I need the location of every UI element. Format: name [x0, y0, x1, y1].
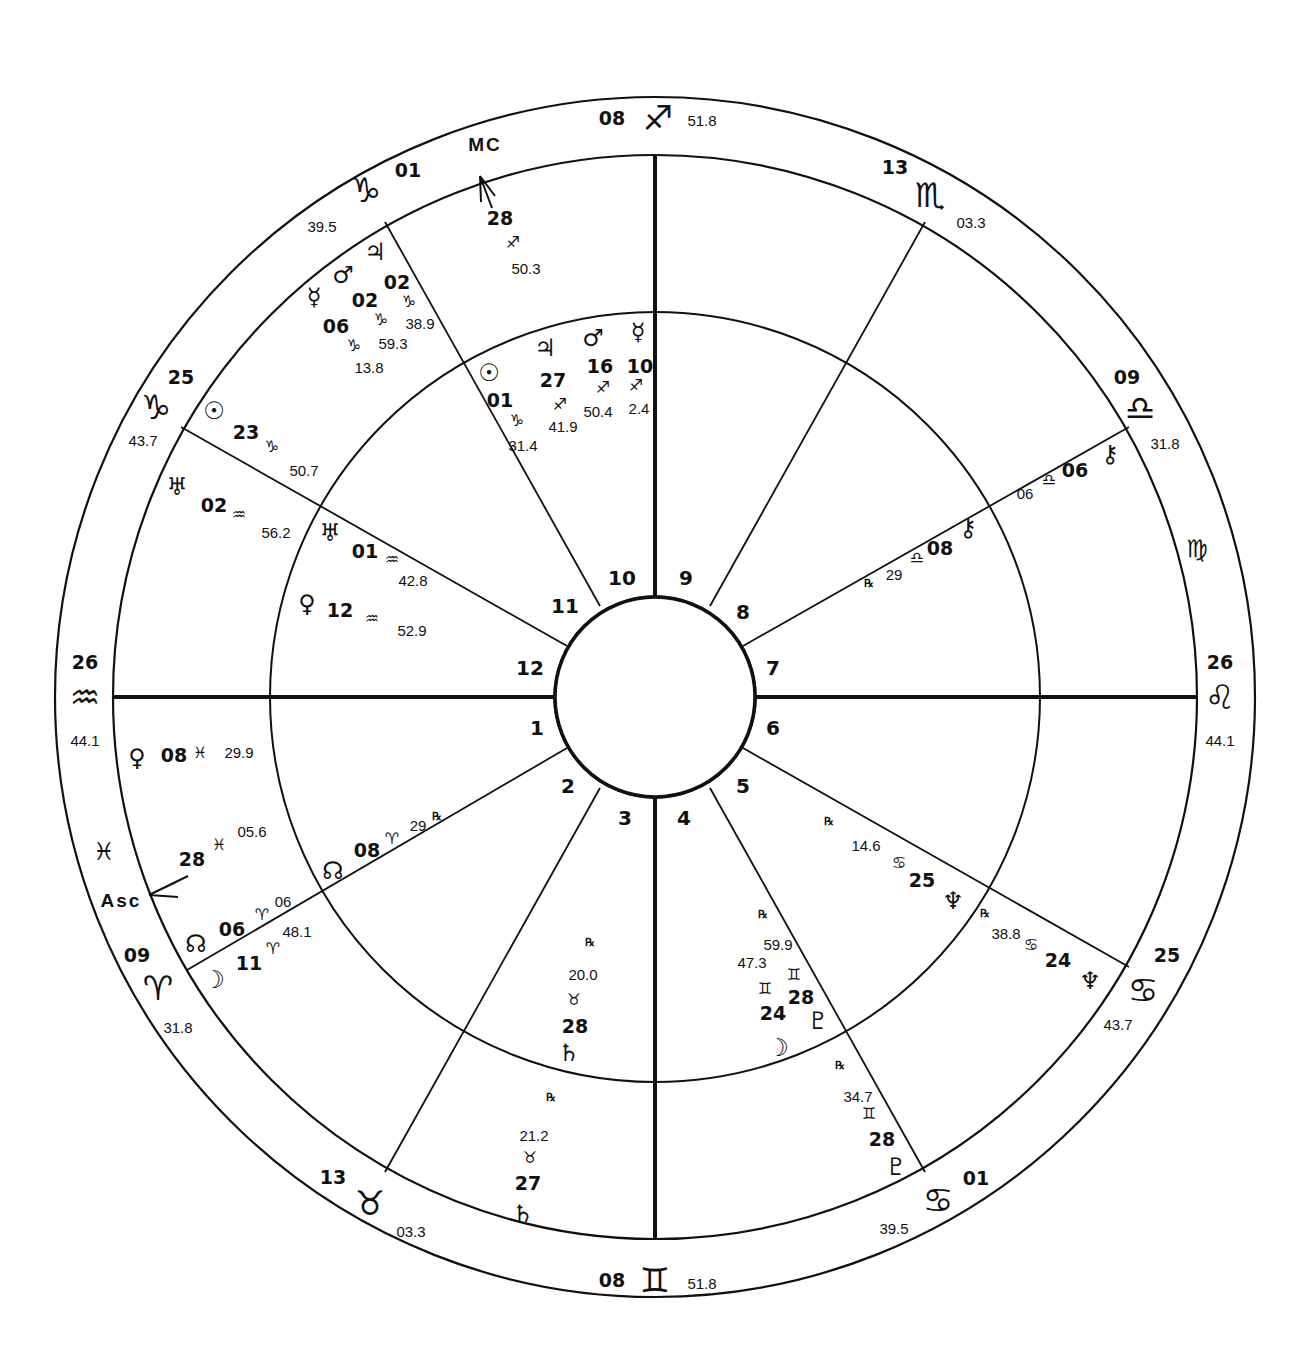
inner-uranus-degree: 01: [352, 542, 378, 561]
inner-venus-sign-icon: ♒: [365, 611, 379, 627]
cusp-line-house-9: [710, 222, 925, 606]
gemini-sign-icon: ♊: [640, 1263, 670, 1297]
house-number-1: 1: [530, 718, 544, 738]
cusp-c2-minutes: 31.8: [163, 1020, 192, 1035]
outer-neptune-minutes: 38.8: [991, 926, 1020, 941]
cusp-c6-degree: 25: [1154, 946, 1180, 965]
chart-wheel-graphic: [0, 0, 1302, 1372]
house-number-8: 8: [736, 602, 750, 622]
outer-pluto-sign-icon: ♊: [862, 1106, 876, 1122]
cusp-mc-minutes: 51.8: [687, 113, 716, 128]
cusp-c5-minutes: 39.5: [879, 1221, 908, 1236]
cusp-c12-minutes: 43.7: [128, 433, 157, 448]
outer-chiron-degree: 06: [1062, 461, 1088, 480]
outer-uranus-icon: ♅: [166, 475, 188, 499]
cusp-c11-minutes: 39.5: [307, 219, 336, 234]
outer-neptune-retrograde-icon: ℞: [980, 908, 990, 919]
outer-chiron-sign-icon: ♎: [1042, 472, 1056, 488]
outer-mars-icon: ♂: [332, 263, 354, 287]
inner-sun-minutes: 31.4: [508, 438, 537, 453]
outer-asc-point-degree: 28: [179, 850, 205, 869]
house-number-6: 6: [766, 718, 780, 738]
outer-moon-icon: ☽: [203, 968, 225, 992]
outer-venus-minutes: 29.9: [224, 745, 253, 760]
inner-mars-sign-icon: ♐: [596, 380, 610, 396]
outer-pluto-degree: 28: [869, 1130, 895, 1149]
inner-mercury-minutes: 2.4: [629, 401, 650, 416]
house-number-7: 7: [766, 658, 780, 678]
inner-moon-sign-icon: ♊: [758, 981, 772, 997]
cancer-sign-icon: ♋: [1128, 973, 1158, 1007]
outer-mercury-sign-icon: ♑: [347, 338, 361, 354]
outer-venus-degree: 08: [161, 746, 187, 765]
inner-chiron-icon: ⚷: [959, 516, 977, 540]
inner-jupiter-degree: 27: [540, 371, 566, 390]
outer-north-node-sign-icon: ♈: [255, 907, 269, 923]
outer-mercury-icon: ☿: [307, 285, 322, 309]
cusp-line-house-5: [710, 788, 925, 1172]
inner-venus-icon: ♀: [298, 592, 316, 616]
outer-neptune-icon: ♆: [1079, 969, 1101, 993]
inner-mercury-icon: ☿: [631, 320, 646, 344]
cusp-c9-degree: 13: [882, 158, 908, 177]
inner-venus-degree: 12: [327, 601, 353, 620]
outer-asc-point-minutes: 05.6: [237, 824, 266, 839]
angle-label-mc: MC: [468, 135, 502, 154]
cusp-asc-minutes: 44.1: [70, 733, 99, 748]
pisces-intercepted-sign-icon: ♓: [93, 840, 115, 864]
inner-mercury-degree: 10: [627, 357, 653, 376]
capricorn-sign-icon: ♑: [141, 390, 171, 424]
inner-sun-sign-icon: ♑: [510, 413, 524, 429]
inner-pluto-degree: 28: [788, 988, 814, 1007]
inner-mercury-sign-icon: ♐: [629, 378, 643, 394]
inner-saturn-minutes: 20.0: [568, 967, 597, 982]
natal-chart-wheel: 10987654321121108♐51.801♑39.525♑43.726♒4…: [0, 0, 1302, 1372]
virgo-intercepted-sign-icon: ♍: [1186, 537, 1208, 561]
inner-jupiter-icon: ♃: [534, 336, 556, 360]
sagittarius-sign-icon: ♐: [643, 101, 673, 135]
cusp-mc-degree: 08: [599, 109, 625, 128]
outer-saturn-icon: ♄: [512, 1202, 534, 1226]
inner-pluto-sign-icon: ♊: [787, 967, 801, 983]
cusp-dsc-minutes: 44.1: [1205, 733, 1234, 748]
outer-sun-degree: 23: [233, 423, 259, 442]
cusp-line-house-6: [743, 748, 1129, 967]
outer-moon-degree: 11: [236, 954, 262, 973]
outer-saturn-minutes: 21.2: [519, 1128, 548, 1143]
inner-chiron-degree: 08: [927, 539, 953, 558]
house-number-12: 12: [516, 658, 544, 678]
inner-sun-degree: 01: [487, 391, 513, 410]
taurus-sign-icon: ♉: [355, 1186, 385, 1220]
inner-mars-degree: 16: [587, 357, 613, 376]
inner-moon-degree: 24: [760, 1004, 786, 1023]
libra-sign-icon: ♎: [1125, 391, 1155, 425]
outer-pluto-minutes: 34.7: [843, 1089, 872, 1104]
outer-asc-point-sign-icon: ♓: [212, 837, 226, 853]
outer-sun-minutes: 50.7: [289, 463, 318, 478]
aquarius-sign-icon: ♒: [70, 680, 100, 714]
leo-sign-icon: ♌: [1205, 680, 1235, 714]
inner-north-node-degree: 08: [354, 841, 380, 860]
outer-chiron-icon: ⚷: [1101, 442, 1119, 466]
inner-mars-minutes: 50.4: [583, 404, 612, 419]
inner-neptune-degree: 25: [909, 871, 935, 890]
inner-uranus-sign-icon: ♒: [385, 552, 399, 568]
cusp-c5-degree: 01: [963, 1169, 989, 1188]
inner-north-node-icon: ☊: [322, 859, 343, 883]
outer-mercury-minutes: 13.8: [354, 360, 383, 375]
inner-north-node-minutes: 29: [410, 818, 427, 833]
outer-venus-sign-icon: ♓: [193, 745, 207, 761]
outer-pluto-icon: ♇: [885, 1155, 907, 1179]
cusp-ic-degree: 08: [599, 1271, 625, 1290]
outer-sun-sign-icon: ♑: [265, 439, 279, 455]
cusp-asc-degree: 26: [72, 653, 98, 672]
outer-sun-icon: ☉: [203, 399, 225, 423]
outer-jupiter-icon: ♃: [364, 240, 386, 264]
cusp-ic-minutes: 51.8: [687, 1276, 716, 1291]
inner-jupiter-minutes: 41.9: [548, 419, 577, 434]
outer-mars-degree: 02: [352, 291, 378, 310]
inner-pluto-minutes: 59.9: [763, 937, 792, 952]
cusp-c12-degree: 25: [168, 368, 194, 387]
outer-mc-point-minutes: 50.3: [511, 261, 540, 276]
outer-neptune-sign-icon: ♋: [1024, 937, 1038, 953]
